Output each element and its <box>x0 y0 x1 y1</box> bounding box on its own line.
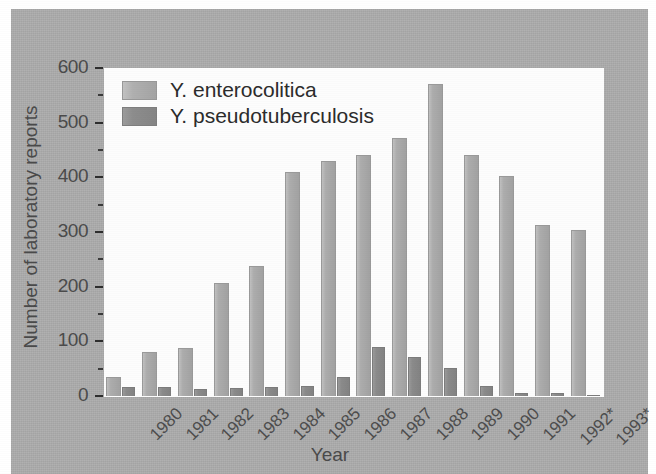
bar-1983-series-1 <box>230 388 243 396</box>
y-tick-major <box>95 122 103 124</box>
bar-1990-series-0 <box>464 155 479 396</box>
y-tick-major <box>95 231 103 233</box>
bar-1993star-series-0 <box>571 230 586 396</box>
y-tick-label: 200 <box>42 275 88 297</box>
bar-1992star-series-0 <box>535 225 550 396</box>
y-tick-major <box>95 67 103 69</box>
y-tick-label: 600 <box>42 56 88 78</box>
bar-1989-series-1 <box>444 368 457 396</box>
y-tick-label: 300 <box>42 220 88 242</box>
y-tick-minor <box>98 258 103 260</box>
x-axis-title: Year <box>250 444 410 466</box>
bar-1984-series-1 <box>265 387 278 396</box>
chart-figure: 0100200300400500600 19801981198219831984… <box>0 0 656 474</box>
bar-1984-series-0 <box>249 266 264 396</box>
bar-1982-series-1 <box>194 389 207 396</box>
bar-1981-series-1 <box>158 387 171 396</box>
legend-label: Y. pseudotuberculosis <box>170 104 374 128</box>
bar-1981-series-0 <box>142 352 157 396</box>
y-tick-label: 500 <box>42 111 88 133</box>
y-tick-major <box>95 176 103 178</box>
bar-1983-series-0 <box>214 283 229 396</box>
legend-item: Y. pseudotuberculosis <box>122 104 374 128</box>
y-tick-minor <box>98 94 103 96</box>
y-tick-major <box>95 395 103 397</box>
legend-swatch-icon <box>122 81 157 100</box>
bar-1986-series-0 <box>321 161 336 396</box>
y-tick-major <box>95 286 103 288</box>
y-axis-line <box>0 0 2 331</box>
bar-1993star-series-1 <box>587 395 600 397</box>
bar-1989-series-0 <box>428 84 443 396</box>
y-tick-minor <box>98 149 103 151</box>
y-tick-major <box>95 340 103 342</box>
bar-1988-series-1 <box>408 357 421 396</box>
legend-swatch-icon <box>122 107 157 126</box>
bar-1986-series-1 <box>337 377 350 396</box>
legend-label: Y. enterocolitica <box>170 78 317 102</box>
y-tick-minor <box>98 368 103 370</box>
y-axis-title: Number of laboratory reports <box>20 77 42 377</box>
bar-1987-series-0 <box>356 155 371 396</box>
y-tick-label: 0 <box>42 384 88 406</box>
bar-1991-series-0 <box>499 176 514 396</box>
bar-1991-series-1 <box>515 393 528 396</box>
legend-item: Y. enterocolitica <box>122 78 374 102</box>
chart-legend: Y. enterocoliticaY. pseudotuberculosis <box>122 78 374 130</box>
y-tick-minor <box>98 313 103 315</box>
y-tick-label: 100 <box>42 329 88 351</box>
y-tick-label: 400 <box>42 165 88 187</box>
y-tick-minor <box>98 204 103 206</box>
bar-1980-series-1 <box>122 387 135 396</box>
bar-1987-series-1 <box>372 347 385 396</box>
bar-1992star-series-1 <box>551 393 564 396</box>
bar-1988-series-0 <box>392 138 407 396</box>
bar-1990-series-1 <box>480 386 493 396</box>
bar-1982-series-0 <box>178 348 193 396</box>
bar-1985-series-1 <box>301 386 314 396</box>
bar-1980-series-0 <box>106 377 121 396</box>
bar-1985-series-0 <box>285 172 300 396</box>
